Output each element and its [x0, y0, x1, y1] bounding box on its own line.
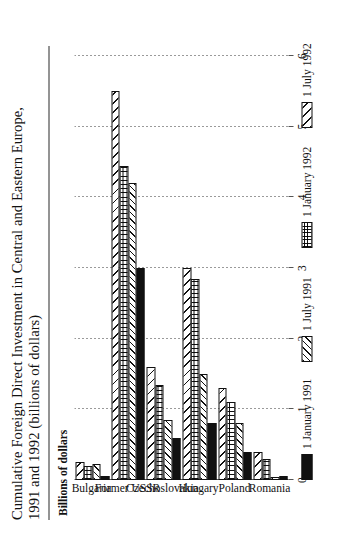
chart-title-line-2: 1991 and 1992 (billions of dollars) — [25, 50, 42, 520]
bar-former-ussr-1-july-1992 — [111, 91, 120, 480]
chart-figure: Cumulative Foreign Direct Investment in … — [0, 0, 339, 536]
bar-czechoslovakia-1-july-1991 — [163, 420, 172, 480]
category-label-romania: Romania — [248, 482, 290, 494]
gridline-4 — [74, 196, 288, 197]
tick-5 — [288, 126, 293, 127]
bar-hungary-1-january-1992 — [190, 279, 199, 480]
bar-romania-1-july-1991 — [270, 478, 279, 481]
legend-swatch-icon-0 — [301, 454, 312, 480]
category-label-poland: Poland — [218, 482, 250, 494]
bar-czechoslovakia-1-july-1992 — [146, 367, 155, 480]
bar-bulgaria-1-january-1991 — [100, 476, 109, 480]
bar-hungary-1-january-1991 — [207, 423, 216, 480]
gridline-3 — [74, 267, 288, 268]
chart-title: Cumulative Foreign Direct Investment in … — [8, 50, 42, 520]
bar-poland-1-january-1992 — [226, 402, 235, 480]
legend-item-1-july-1991[interactable]: 1 July 1991 — [300, 277, 312, 362]
legend-label: 1 January 1991 — [300, 379, 312, 449]
tick-1 — [288, 408, 293, 409]
category-label-hungary: Hungary — [178, 482, 218, 494]
value-axis-caption: Billions of dollars — [56, 430, 68, 516]
bar-bulgaria-1-july-1991 — [92, 464, 101, 480]
tick-3 — [288, 267, 293, 268]
bar-hungary-1-july-1991 — [199, 374, 208, 480]
legend-swatch-icon-1 — [301, 336, 312, 362]
plot-area: 0123456 BulgariaFormer USSRCzechoslovaki… — [74, 56, 288, 480]
legend-label: 1 January 1992 — [300, 147, 312, 217]
legend-label: 1 July 1991 — [300, 277, 312, 331]
legend-item-1-july-1992[interactable]: 1 July 1992 — [300, 43, 312, 128]
legend-label: 1 July 1992 — [300, 43, 312, 97]
bar-romania-1-july-1992 — [253, 452, 262, 480]
bar-former-ussr-1-january-1991 — [136, 268, 145, 480]
legend-swatch-icon-2 — [301, 222, 312, 248]
bar-poland-1-january-1991 — [243, 452, 252, 480]
title-divider — [48, 46, 49, 520]
legend-swatch-icon-3 — [301, 102, 312, 128]
bar-romania-1-january-1992 — [262, 459, 271, 480]
gridline-5 — [74, 126, 288, 127]
gridline-1 — [74, 408, 288, 409]
tick-2 — [288, 338, 293, 339]
bar-czechoslovakia-1-january-1992 — [155, 385, 164, 480]
bar-czechoslovakia-1-january-1991 — [172, 438, 181, 480]
gridline-2 — [74, 338, 288, 339]
bar-former-ussr-1-january-1992 — [119, 166, 128, 480]
tick-6 — [288, 55, 293, 56]
tick-0 — [288, 479, 293, 480]
chart-legend: 1 January 19911 July 19911 January 19921… — [300, 40, 324, 480]
legend-item-1-january-1992[interactable]: 1 January 1992 — [300, 147, 312, 248]
legend-item-1-january-1991[interactable]: 1 January 1991 — [300, 379, 312, 480]
gridline-6 — [74, 55, 288, 56]
bar-bulgaria-1-january-1992 — [83, 466, 92, 480]
bar-bulgaria-1-july-1992 — [75, 462, 84, 480]
bar-poland-1-july-1991 — [235, 423, 244, 480]
chart-title-line-1: Cumulative Foreign Direct Investment in … — [8, 50, 25, 520]
bar-poland-1-july-1992 — [218, 388, 227, 480]
bar-former-ussr-1-july-1991 — [128, 183, 137, 480]
tick-4 — [288, 196, 293, 197]
bar-romania-1-january-1991 — [279, 476, 288, 480]
bar-hungary-1-july-1992 — [182, 268, 191, 480]
